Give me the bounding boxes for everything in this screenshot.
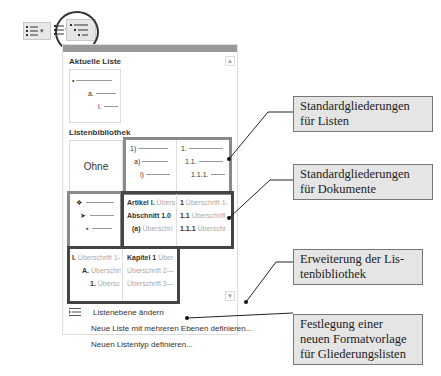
callout-line: für Dokumente xyxy=(300,182,428,197)
callout-line: tenbibliothek xyxy=(300,267,418,282)
callout-standard-documents: Standardgliederungen für Dokumente xyxy=(293,164,433,200)
callout-line: neuen Formatvorlage xyxy=(300,332,418,347)
callout-line: Standardgliederungen xyxy=(300,167,428,182)
callout-line: Festlegung einer xyxy=(300,317,418,332)
callout-line: für Gliederungslisten xyxy=(300,347,418,362)
callout-line: Standardgliederungen xyxy=(300,99,428,114)
callout-standard-lists: Standardgliederungen für Listen xyxy=(293,96,433,132)
callout-line: Erweiterung der Lis- xyxy=(300,252,418,267)
callout-line: für Listen xyxy=(300,114,428,129)
callout-new-list-style: Festlegung einer neuen Formatvorlage für… xyxy=(293,314,423,365)
callout-library-extension: Erweiterung der Lis- tenbibliothek xyxy=(293,249,423,285)
